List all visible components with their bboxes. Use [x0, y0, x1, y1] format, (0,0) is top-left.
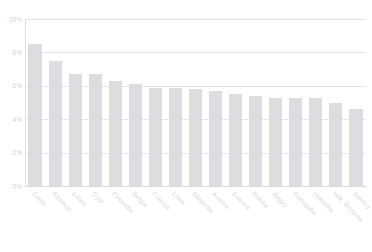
- x-axis-tick-label: Szwecja: [51, 190, 74, 213]
- x-axis-tick-label: Estonia: [231, 190, 252, 211]
- x-axis-tick-label: Belgia: [131, 190, 149, 208]
- x-axis-tick-label: Francja: [151, 190, 172, 211]
- x-axis-tick-label: Cypr: [91, 190, 106, 205]
- x-axis-tick-label: Austria: [211, 190, 231, 210]
- x-axis-tick-label: Litwa: [171, 190, 187, 206]
- x-axis-tick-label: Węgry: [271, 190, 290, 209]
- x-axis-tick-label: Dania: [31, 190, 48, 207]
- x-axis-tick-label: Łotwa: [71, 190, 89, 208]
- x-axis-tick-label: Polska: [251, 190, 270, 209]
